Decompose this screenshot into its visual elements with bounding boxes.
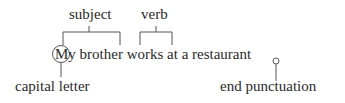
example-sentence: My brother works at a restaurant — [55, 46, 251, 63]
capital-letter-label: capital letter — [15, 78, 90, 95]
end-punctuation-label: end punctuation — [220, 78, 316, 95]
verb-bracket — [140, 26, 172, 45]
subject-label: subject — [69, 6, 112, 23]
subject-bracket — [63, 26, 120, 45]
verb-label: verb — [141, 6, 168, 23]
